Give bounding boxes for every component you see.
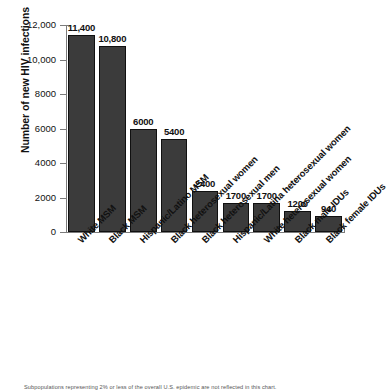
y-axis-tick xyxy=(60,232,66,233)
bar-value-label: 6000 xyxy=(133,117,153,127)
y-axis-tick-label: 8000 xyxy=(35,89,56,99)
y-axis-tick-label: 10,000 xyxy=(27,55,56,65)
bar-value-label: 5400 xyxy=(164,127,184,137)
y-axis-tick-label: 12,000 xyxy=(27,20,56,30)
bar-value-label: 10,800 xyxy=(98,34,126,44)
y-axis-tick-label: 6000 xyxy=(35,124,56,134)
chart-footnote: Subpopulations representing 2% or less o… xyxy=(24,384,354,390)
y-axis-tick-label: 4000 xyxy=(35,158,56,168)
y-axis-tick-label: 0 xyxy=(51,227,56,237)
bar-value-label: 11,400 xyxy=(68,23,95,33)
y-axis-tick-label: 2000 xyxy=(35,193,56,203)
bar xyxy=(68,35,95,232)
